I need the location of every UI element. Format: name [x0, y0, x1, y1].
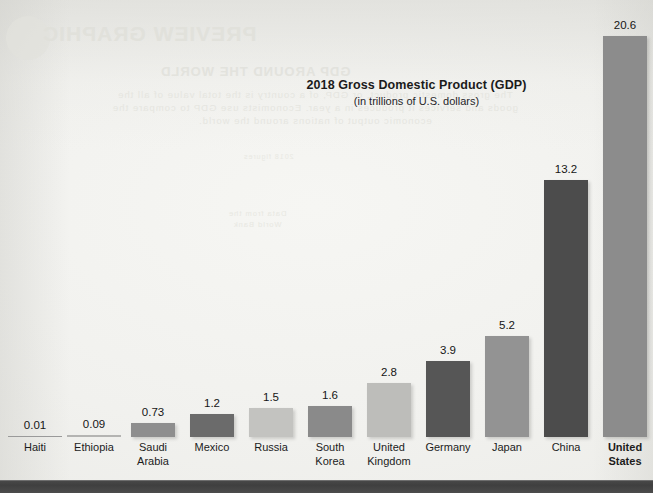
- bar-value-label: 1.2: [183, 397, 241, 409]
- bar-column: 3.9: [419, 0, 477, 437]
- bar-value-label: 2.8: [360, 366, 418, 378]
- bar-value-label: 0.73: [124, 406, 182, 418]
- chart-title-block: 2018 Gross Domestic Product (GDP) (in tr…: [0, 78, 653, 107]
- x-axis-label: Mexico: [183, 441, 241, 455]
- x-axis-label: SouthKorea: [301, 441, 359, 468]
- bar-column: 0.01: [6, 0, 64, 437]
- x-axis-label: UnitedStates: [596, 441, 653, 468]
- bar-column: 5.2: [478, 0, 536, 437]
- bar: [308, 406, 352, 437]
- bar-value-label: 20.6: [596, 19, 653, 31]
- bar-column: 20.6: [596, 0, 653, 437]
- bar: [67, 435, 121, 437]
- bar-column: 0.73: [124, 0, 182, 437]
- bar: [131, 423, 175, 437]
- bar-value-label: 0.01: [6, 419, 64, 431]
- bar: [426, 361, 470, 437]
- bar-chart-plot-area: 0.010.090.731.21.51.62.83.95.213.220.6: [0, 0, 653, 437]
- x-axis-label: Germany: [419, 441, 477, 455]
- bar-column: 1.6: [301, 0, 359, 437]
- bar-column: 0.09: [65, 0, 123, 437]
- bar-value-label: 1.6: [301, 389, 359, 401]
- bar: [367, 383, 411, 437]
- bar-column: 1.5: [242, 0, 300, 437]
- bar-column: 1.2: [183, 0, 241, 437]
- chart-subtitle: (in trillions of U.S. dollars): [0, 95, 653, 107]
- chart-title: 2018 Gross Domestic Product (GDP): [0, 78, 653, 92]
- bar: [8, 436, 62, 438]
- x-axis-label: Haiti: [6, 441, 64, 455]
- page-bottom-band: [0, 480, 653, 493]
- bar: [544, 180, 588, 437]
- x-axis-labels: HaitiEthiopiaSaudiArabiaMexicoRussiaSout…: [0, 441, 653, 485]
- x-axis-label: Russia: [242, 441, 300, 455]
- bar-value-label: 3.9: [419, 344, 477, 356]
- bar: [249, 408, 293, 437]
- x-axis-label: SaudiArabia: [124, 441, 182, 468]
- x-axis-label: UnitedKingdom: [360, 441, 418, 468]
- chart-page: PREVIEW GRAPHIC GDP AROUND THE WORLD The…: [0, 0, 653, 493]
- bar-column: 13.2: [537, 0, 595, 437]
- bar-value-label: 0.09: [65, 418, 123, 430]
- x-axis-label: China: [537, 441, 595, 455]
- bar-value-label: 1.5: [242, 391, 300, 403]
- bar-column: 2.8: [360, 0, 418, 437]
- bar: [190, 414, 234, 437]
- bar-value-label: 5.2: [478, 319, 536, 331]
- x-axis-label: Ethiopia: [65, 441, 123, 455]
- page-bottom-band-edge: [0, 480, 653, 481]
- x-axis-label: Japan: [478, 441, 536, 455]
- bar-value-label: 13.2: [537, 163, 595, 175]
- bar: [485, 336, 529, 437]
